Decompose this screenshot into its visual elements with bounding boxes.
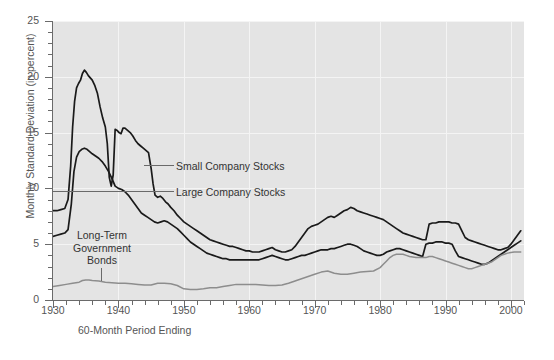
y-tick-minor [48, 155, 53, 156]
x-tick-minor [485, 301, 486, 305]
y-tick-minor [48, 278, 53, 279]
x-tick-label: 1940 [95, 304, 141, 316]
y-axis-line [52, 21, 53, 301]
x-tick-minor [472, 301, 473, 305]
y-tick-major [45, 21, 53, 22]
x-tick-minor [341, 301, 342, 305]
y-tick-minor [48, 144, 53, 145]
y-tick-minor [48, 200, 53, 201]
x-tick-minor [79, 301, 80, 305]
y-tick-minor [48, 66, 53, 67]
annotation-bonds-line3: Bonds [87, 254, 117, 266]
annotation-bonds-line2: Government [73, 242, 131, 254]
x-axis-title: 60-Month Period Ending [78, 324, 191, 336]
y-tick-minor [48, 177, 53, 178]
series-line [53, 70, 521, 252]
x-tick-minor [92, 301, 93, 305]
y-tick-major [45, 244, 53, 245]
y-tick-major [45, 188, 53, 189]
y-tick-major [45, 300, 53, 301]
x-tick-minor [275, 301, 276, 305]
annotation-large-company-stocks: Large Company Stocks [176, 186, 285, 198]
y-tick-minor [48, 267, 53, 268]
y-tick-minor [48, 43, 53, 44]
x-tick-label: 2000 [488, 304, 534, 316]
x-tick-minor [210, 301, 211, 305]
y-tick-minor [48, 211, 53, 212]
y-tick-minor [48, 289, 53, 290]
x-tick-label: 1960 [226, 304, 272, 316]
x-tick-minor [289, 301, 290, 305]
y-tick-major [45, 133, 53, 134]
leader-line-bonds [101, 268, 102, 281]
chart-figure: 0510152025 19301940195019601970198019902… [0, 0, 554, 360]
x-tick-minor [223, 301, 224, 305]
y-tick-minor [48, 255, 53, 256]
y-tick-minor [48, 222, 53, 223]
x-tick-label: 1950 [161, 304, 207, 316]
annotation-small-company-stocks: Small Company Stocks [176, 160, 285, 172]
leader-line-large [53, 191, 174, 192]
y-tick-label: 5 [17, 237, 39, 249]
y-tick-minor [48, 121, 53, 122]
x-tick-label: 1980 [357, 304, 403, 316]
y-tick-major [45, 77, 53, 78]
y-tick-minor [48, 233, 53, 234]
y-tick-minor [48, 54, 53, 55]
y-tick-minor [48, 166, 53, 167]
y-tick-minor [48, 110, 53, 111]
top-caption [62, 0, 532, 1]
y-tick-minor [48, 99, 53, 100]
x-tick-label: 1990 [423, 304, 469, 316]
x-tick-label: 1930 [30, 304, 76, 316]
x-tick-minor [145, 301, 146, 305]
annotation-long-term-government-bonds: Long-Term Government Bonds [59, 229, 145, 267]
y-axis-title: Monthly Standard Deviation (in percent) [24, 16, 36, 236]
y-tick-minor [48, 32, 53, 33]
annotation-bonds-line1: Long-Term [77, 229, 127, 241]
y-tick-minor [48, 88, 53, 89]
x-tick-label: 1970 [292, 304, 338, 316]
x-tick-minor [419, 301, 420, 305]
leader-line-small [144, 165, 174, 166]
x-tick-minor [354, 301, 355, 305]
x-tick-minor [158, 301, 159, 305]
x-tick-minor [406, 301, 407, 305]
